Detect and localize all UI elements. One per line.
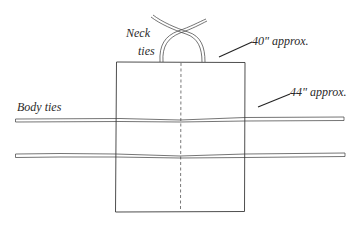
body-measure-leader <box>258 94 290 107</box>
body-measure-label: 44" approx. <box>290 86 347 98</box>
neck-ties-label-line1: Neck <box>126 27 150 39</box>
body-ties-label: Body ties <box>17 101 61 113</box>
neck-ties <box>151 15 207 62</box>
neck-ties-label-line2: ties <box>138 45 155 57</box>
neck-measure-leader <box>219 42 252 57</box>
body-tie-upper <box>16 117 345 122</box>
neck-measure-label: 40" approx. <box>252 35 309 47</box>
garment-diagram: Neck ties 40" approx. 44" approx. Body t… <box>0 0 362 226</box>
body-tie-lower <box>16 153 346 158</box>
fold-line <box>181 63 182 211</box>
